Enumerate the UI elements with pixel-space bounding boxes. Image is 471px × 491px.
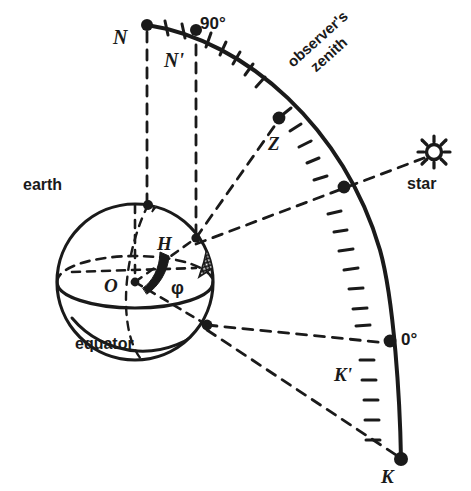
label-star: star <box>407 175 436 192</box>
label-N: N <box>112 26 129 48</box>
arc-node-K <box>394 452 408 466</box>
arc-node-0-degrees <box>384 335 397 348</box>
label-90-degrees: 90° <box>200 14 226 33</box>
zenith-sight-line <box>196 121 278 238</box>
sphere-center-point <box>131 278 140 287</box>
label-0-degrees: 0° <box>401 330 417 349</box>
celestial-arc <box>147 25 401 459</box>
star-icon <box>418 136 450 168</box>
label-observers-zenith: observer's zenith <box>284 7 364 84</box>
label-H: H <box>156 233 173 254</box>
label-Z: Z <box>267 133 280 154</box>
diagram-canvas: N N' 90° Z observer's zenith star earth … <box>0 0 471 491</box>
line-to-K <box>207 330 396 455</box>
label-phi: φ <box>171 278 184 298</box>
label-K-prime: K' <box>333 364 352 385</box>
label-O: O <box>104 275 118 296</box>
sight-line-to-star <box>196 158 424 244</box>
celestial-sphere-diagram: N N' 90° Z observer's zenith star earth … <box>0 0 471 491</box>
arc-node-N <box>141 19 153 31</box>
horizon-line-to-Kprime <box>207 325 388 343</box>
arc-node-star-crossing <box>338 181 351 194</box>
label-earth: earth <box>23 176 62 193</box>
label-N-prime: N' <box>163 49 184 71</box>
label-K: K <box>380 466 395 487</box>
arc-node-Z <box>273 112 286 125</box>
label-equator: equator <box>75 335 134 352</box>
